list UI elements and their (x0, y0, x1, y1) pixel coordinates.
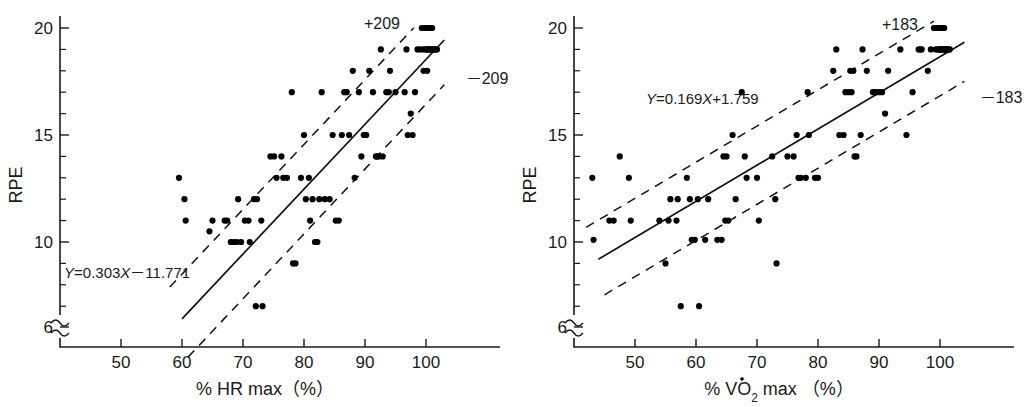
data-point (841, 132, 847, 138)
data-point (330, 132, 336, 138)
data-point (303, 196, 309, 202)
data-point (754, 175, 760, 181)
data-point (412, 89, 418, 95)
lower-band-label: －209 (466, 70, 509, 87)
x-tick-label: 60 (687, 353, 706, 372)
regression-line (182, 40, 444, 319)
axis-break-icon (565, 330, 583, 336)
axis-break-icon (51, 330, 69, 336)
data-point (879, 89, 885, 95)
data-point (772, 196, 778, 202)
data-point (386, 89, 392, 95)
data-point (378, 46, 384, 52)
x-tick-label: 50 (626, 353, 645, 372)
data-point (316, 196, 322, 202)
data-point (662, 260, 668, 266)
data-point (284, 175, 290, 181)
data-point (692, 237, 698, 243)
data-point (259, 303, 265, 309)
data-point (617, 153, 623, 159)
data-point (805, 89, 811, 95)
data-point (314, 239, 320, 245)
data-point (327, 196, 333, 202)
data-point (380, 153, 386, 159)
data-point (253, 303, 259, 309)
data-point (346, 132, 352, 138)
data-point (319, 89, 325, 95)
data-point (864, 68, 870, 74)
x-axis-title: % VO2 max （%） (704, 379, 854, 405)
data-point (278, 153, 284, 159)
regression-line (598, 42, 964, 259)
data-point (833, 46, 839, 52)
data-point (402, 89, 408, 95)
data-point (684, 175, 690, 181)
regression-equation-label: Y=0.303X－11.771 (64, 264, 190, 281)
data-point (687, 196, 693, 202)
lower-band-label: －183 (980, 89, 1023, 106)
data-point (339, 132, 345, 138)
panel-hr-max-svg: 2015106RPE5060708090100% HR max（%）+209－2… (0, 0, 514, 407)
data-point (409, 132, 415, 138)
data-point (352, 175, 358, 181)
data-point (358, 153, 364, 159)
panel-vo2-max-svg: 2015106RPE5060708090100% VO2 max （%）+183… (514, 0, 1028, 407)
x-tick-label: 90 (870, 353, 889, 372)
data-point (626, 175, 632, 181)
data-point (815, 175, 821, 181)
y-tick-label: 10 (34, 233, 53, 252)
data-point (742, 153, 748, 159)
data-point (730, 132, 736, 138)
data-point (733, 196, 739, 202)
x-tick-label: 100 (926, 353, 954, 372)
upper-band-line (586, 21, 934, 227)
data-point (298, 175, 304, 181)
data-point (947, 46, 953, 52)
data-point (628, 218, 634, 224)
data-point (363, 132, 369, 138)
y-axis-title: RPE (520, 166, 540, 203)
data-point (350, 68, 356, 74)
x-tick-label: 100 (412, 353, 440, 372)
data-point (306, 175, 312, 181)
data-point (258, 218, 264, 224)
data-point (271, 153, 277, 159)
data-point (756, 218, 762, 224)
data-point (853, 153, 859, 159)
data-point (702, 237, 708, 243)
upper-band-label: +183 (882, 16, 918, 33)
data-point (273, 175, 279, 181)
y-tick-label: 15 (34, 126, 53, 145)
data-point (590, 237, 596, 243)
y-tick-label: 20 (34, 19, 53, 38)
data-point (859, 46, 865, 52)
data-point (206, 228, 212, 234)
panel-vo2-max: 2015106RPE5060708090100% VO2 max （%）+183… (514, 0, 1028, 407)
data-point (725, 218, 731, 224)
x-tick-label: 50 (112, 353, 131, 372)
data-point (209, 218, 215, 224)
upper-band-label: +209 (364, 15, 400, 32)
data-point (247, 239, 253, 245)
data-point (403, 46, 409, 52)
data-point (882, 111, 888, 117)
data-point (903, 132, 909, 138)
data-point (289, 89, 295, 95)
data-point (806, 132, 812, 138)
data-point (941, 25, 947, 31)
data-point (429, 25, 435, 31)
data-point (344, 89, 350, 95)
y-axis-title: RPE (6, 166, 26, 203)
x-axis-title: % HR max（%） (196, 379, 334, 399)
data-point (848, 89, 854, 95)
data-point (696, 303, 702, 309)
data-point (925, 68, 931, 74)
data-point (744, 175, 750, 181)
data-point (885, 68, 891, 74)
y-tick-label: 6 (44, 318, 53, 337)
y-tick-label: 15 (548, 126, 567, 145)
data-point (695, 196, 701, 202)
v-dot-icon (740, 377, 744, 381)
y-tick-label: 20 (548, 19, 567, 38)
data-point (678, 303, 684, 309)
